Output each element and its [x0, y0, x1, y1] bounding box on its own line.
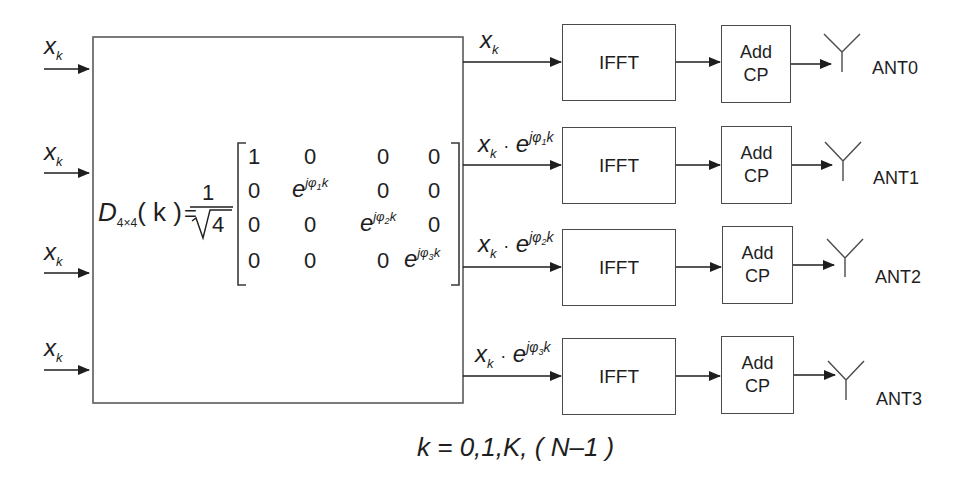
- ifft-block-0: IFFT: [562, 24, 676, 101]
- antenna-label-1: ANT1: [873, 168, 919, 189]
- branch-signal-label-1: xk · ejφ1k: [478, 130, 553, 160]
- matrix-cell-3-1: 0: [270, 250, 350, 272]
- ifft-block-3: IFFT: [562, 338, 676, 415]
- add-cp-block-3: AddCP: [721, 336, 794, 414]
- matrix-cell-0-1: 0: [270, 146, 350, 168]
- matrix-cell-1-3: 0: [394, 180, 474, 202]
- antenna-label-0: ANT0: [872, 58, 918, 79]
- matrix-cell-3-3: ejφ3k: [382, 246, 462, 271]
- matrix-cell-1-1: ejφ1k: [270, 176, 350, 201]
- add-cp-block-1: AddCP: [721, 126, 792, 204]
- antenna-label-3: ANT3: [876, 389, 922, 410]
- input-label-2: xk: [44, 240, 63, 268]
- branch-signal-label-0: xk: [480, 28, 499, 56]
- ifft-block-1: IFFT: [562, 127, 676, 204]
- antenna-icon-2: [827, 239, 863, 277]
- input-label-3: xk: [44, 336, 63, 364]
- add-cp-block-2: AddCP: [722, 226, 793, 304]
- antenna-label-2: ANT2: [875, 267, 921, 288]
- add-cp-block-0: AddCP: [721, 25, 791, 103]
- antenna-icon-1: [825, 142, 861, 181]
- branch-signal-label-2: xk · ejφ2k: [478, 230, 553, 260]
- scale-numerator: 1: [202, 180, 214, 206]
- input-label-1: xk: [44, 140, 63, 168]
- matrix-cell-0-3: 0: [394, 146, 474, 168]
- input-label-0: xk: [44, 34, 63, 62]
- ifft-block-2: IFFT: [562, 229, 676, 306]
- matrix-lhs: D4×4( k )=: [98, 197, 197, 230]
- branch-signal-label-3: xk · ejφ3k: [475, 340, 550, 370]
- index-range-formula: k = 0,1,K, ( N–1 ): [417, 432, 614, 463]
- antenna-icon-0: [824, 34, 860, 72]
- matrix-cell-2-3: 0: [394, 214, 474, 236]
- antenna-icon-3: [828, 361, 864, 400]
